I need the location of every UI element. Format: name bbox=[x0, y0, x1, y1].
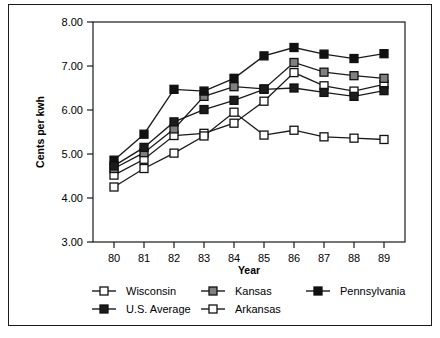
data-point bbox=[230, 74, 238, 82]
data-point bbox=[260, 52, 268, 60]
data-point bbox=[380, 74, 388, 82]
data-point bbox=[230, 119, 238, 127]
data-point bbox=[350, 134, 358, 142]
legend-label: Kansas bbox=[235, 285, 272, 297]
legend-item-wisconsin[interactable]: Wisconsin bbox=[92, 285, 176, 297]
x-tick-label: 86 bbox=[288, 252, 300, 264]
data-point bbox=[290, 44, 298, 52]
legend-label: Arkansas bbox=[235, 303, 281, 315]
y-tick-label: 3.00 bbox=[62, 236, 83, 248]
x-tick-label: 85 bbox=[258, 252, 270, 264]
data-point bbox=[200, 132, 208, 140]
legend-label: Pennsylvania bbox=[340, 285, 406, 297]
chart-svg: 3.004.005.006.007.008.00 808182838485868… bbox=[0, 0, 440, 338]
data-point bbox=[350, 92, 358, 100]
data-point bbox=[170, 118, 178, 126]
data-point bbox=[290, 69, 298, 77]
line-chart: 3.004.005.006.007.008.00 808182838485868… bbox=[0, 0, 440, 338]
data-point bbox=[230, 96, 238, 104]
data-point bbox=[110, 183, 118, 191]
data-point bbox=[350, 72, 358, 80]
data-point bbox=[260, 85, 268, 93]
data-point bbox=[320, 68, 328, 76]
x-tick-label: 80 bbox=[108, 252, 120, 264]
legend-label: U.S. Average bbox=[126, 303, 191, 315]
x-axis-ticks bbox=[114, 242, 384, 248]
data-point bbox=[320, 50, 328, 58]
data-point bbox=[380, 50, 388, 58]
y-tick-label: 7.00 bbox=[62, 60, 83, 72]
legend-marker bbox=[209, 287, 217, 295]
y-axis-ticks bbox=[87, 22, 93, 242]
data-point bbox=[230, 83, 238, 91]
data-point bbox=[170, 149, 178, 157]
legend-marker bbox=[314, 287, 322, 295]
data-point bbox=[290, 58, 298, 66]
figure-container: 3.004.005.006.007.008.00 808182838485868… bbox=[0, 0, 440, 338]
y-tick-label: 5.00 bbox=[62, 148, 83, 160]
legend-item-kansas[interactable]: Kansas bbox=[201, 285, 272, 297]
data-point bbox=[290, 84, 298, 92]
y-axis-title: Cents per kwh bbox=[34, 96, 46, 168]
data-point bbox=[260, 97, 268, 105]
data-point bbox=[170, 85, 178, 93]
legend-marker bbox=[209, 305, 217, 313]
y-tick-label: 4.00 bbox=[62, 192, 83, 204]
data-point bbox=[200, 106, 208, 114]
data-point bbox=[140, 143, 148, 151]
x-tick-label: 83 bbox=[198, 252, 210, 264]
x-axis-tick-labels: 80818283848586878889 bbox=[108, 252, 390, 264]
data-point bbox=[380, 135, 388, 143]
y-tick-label: 8.00 bbox=[62, 16, 83, 28]
data-point bbox=[140, 165, 148, 173]
chart-legend: WisconsinKansasPennsylvaniaU.S. AverageA… bbox=[92, 285, 406, 315]
data-point bbox=[320, 133, 328, 141]
data-point bbox=[380, 87, 388, 95]
legend-marker bbox=[100, 305, 108, 313]
x-axis-title: Year bbox=[238, 264, 260, 276]
legend-item-u-s-average[interactable]: U.S. Average bbox=[92, 303, 191, 315]
data-point bbox=[200, 87, 208, 95]
legend-item-pennsylvania[interactable]: Pennsylvania bbox=[306, 285, 406, 297]
data-point bbox=[110, 162, 118, 170]
data-point bbox=[320, 88, 328, 96]
data-point bbox=[290, 126, 298, 134]
data-point bbox=[140, 130, 148, 138]
legend-item-arkansas[interactable]: Arkansas bbox=[201, 303, 281, 315]
x-tick-label: 87 bbox=[318, 252, 330, 264]
x-tick-label: 84 bbox=[228, 252, 240, 264]
x-tick-label: 88 bbox=[348, 252, 360, 264]
legend-label: Wisconsin bbox=[126, 285, 176, 297]
data-point bbox=[230, 108, 238, 116]
x-tick-label: 82 bbox=[168, 252, 180, 264]
y-tick-label: 6.00 bbox=[62, 104, 83, 116]
data-point bbox=[350, 55, 358, 63]
y-axis-tick-labels: 3.004.005.006.007.008.00 bbox=[62, 16, 83, 248]
x-tick-label: 89 bbox=[378, 252, 390, 264]
x-tick-label: 81 bbox=[138, 252, 150, 264]
legend-marker bbox=[100, 287, 108, 295]
data-point bbox=[260, 131, 268, 139]
